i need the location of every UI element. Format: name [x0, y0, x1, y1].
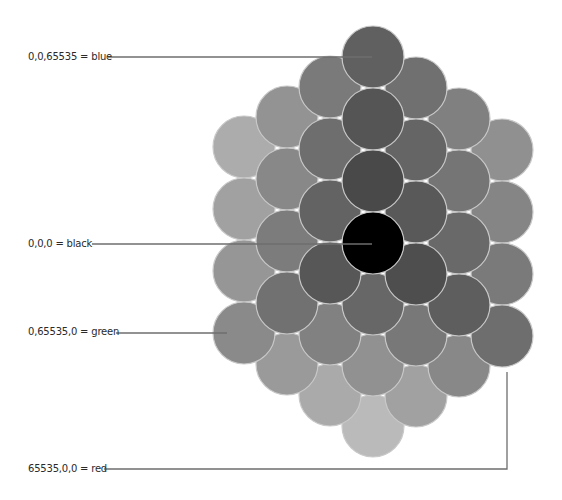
leader-line-red: [104, 372, 507, 469]
leader-lines: [0, 0, 562, 500]
label-black: 0,0,0 = black: [28, 238, 92, 250]
label-blue: 0,0,65535 = blue: [28, 51, 112, 63]
label-green: 0,65535,0 = green: [28, 326, 119, 338]
rgb-cube-diagram: 0,0,65535 = blue 0,0,0 = black 0,65535,0…: [0, 0, 562, 500]
label-red: 65535,0,0 = red: [28, 463, 107, 475]
